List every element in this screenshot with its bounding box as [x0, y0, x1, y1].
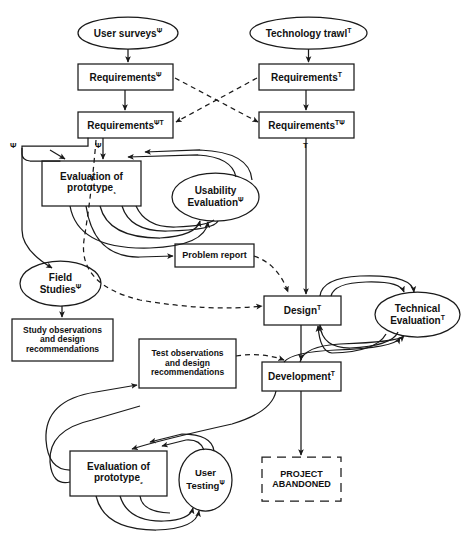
edge-requirements-t-to-requirements-psi-t-dashed — [176, 78, 257, 122]
edge-requirements-psi-t-to-field-studies — [22, 148, 52, 268]
edge-requirements-psi-t-rail-to-evaluation-prototype-1 — [22, 138, 88, 161]
shape-test-observations — [139, 339, 236, 388]
shape-requirements-psi — [78, 64, 173, 90]
solid-edges — [22, 49, 414, 530]
edge-label-psi-left: Ψ — [10, 141, 16, 150]
edge-design-to-technical-evaluation-outer — [320, 276, 414, 296]
edge-evaluation-prototype-2-to-user-testing-outer — [96, 496, 199, 530]
dashed-edges — [83, 78, 288, 360]
shape-technical-evaluation — [375, 292, 460, 337]
shape-evaluation-prototype-1 — [42, 161, 141, 206]
edge-design-to-technical-evaluation-inner — [331, 282, 404, 296]
edge-rail-arrow-into-evaluation-prototype-1 — [50, 150, 65, 159]
shape-user-testing — [179, 449, 232, 511]
node-shapes — [12, 17, 460, 511]
shape-usability-evaluation — [172, 173, 259, 221]
edge-evaluation-prototype-2-to-user-testing-inner — [120, 496, 193, 521]
edge-evaluation-prototype-2-left-loop-b — [140, 496, 170, 513]
shape-user-surveys — [78, 17, 178, 49]
shape-field-studies — [20, 261, 101, 306]
edge-evaluation-prototype-2-left-loop — [50, 406, 140, 483]
shape-technology-trawl — [250, 17, 367, 49]
edge-evaluation-prototype-2-to-test-observations — [46, 385, 137, 470]
edge-development-to-evaluation-prototype-2 — [132, 391, 276, 449]
edge-user-testing-to-evaluation-prototype-2-inner — [162, 440, 204, 450]
shape-problem-report — [175, 244, 254, 267]
shape-project-abandoned — [262, 457, 341, 501]
diagram-vector-layer — [0, 0, 467, 542]
shape-design — [264, 296, 341, 325]
shape-study-observations — [12, 319, 113, 361]
shape-development — [262, 362, 341, 391]
edge-layer — [12, 17, 460, 530]
shape-requirements-psi-t — [78, 112, 173, 138]
shape-requirements-t — [259, 64, 354, 90]
diagram-canvas: User surveysΨ Technology trawlT Requirem… — [0, 0, 467, 542]
shape-evaluation-prototype-2 — [70, 451, 167, 496]
edge-test-observations-to-development-dashed — [236, 355, 284, 360]
edge-evaluation-prototype-1-loop-b — [136, 206, 214, 227]
edge-label-psi-mid: Ψ — [95, 141, 101, 150]
edge-problem-report-to-design-dashed — [254, 256, 288, 292]
shape-requirements-t-psi — [259, 112, 354, 138]
edge-label-t-right: T — [303, 141, 308, 150]
